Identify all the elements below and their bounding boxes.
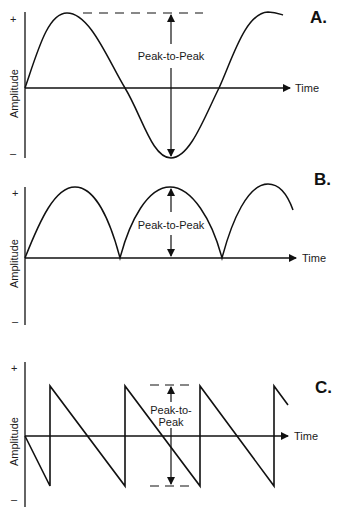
panel-b-peak-to-peak-label: Peak-to-Peak xyxy=(138,219,205,231)
panel-c-letter: C. xyxy=(315,378,332,397)
panel-a-peak-to-peak-label: Peak-to-Peak xyxy=(138,50,205,62)
panel-b-x-label: Time xyxy=(302,252,326,264)
panel-c-peak-to-peak-label-line2: Peak xyxy=(158,416,184,428)
panel-a-x-label: Time xyxy=(295,82,319,94)
panel-a-y-label: Amplitude xyxy=(8,69,20,118)
panel-c-x-label: Time xyxy=(294,430,318,442)
panel-c-minus-sign: – xyxy=(11,493,18,505)
panel-c-plus-sign: + xyxy=(11,362,17,374)
panel-c-peak-to-peak-label-line1: Peak-to- xyxy=(150,404,192,416)
panel-c: C. + – Amplitude Time Peak-to- Peak xyxy=(8,362,332,507)
panel-a-plus-sign: + xyxy=(10,13,16,25)
panel-b-minus-sign: – xyxy=(12,315,19,327)
waveform-diagram: A. + – Amplitude Time Peak-to-Peak B. + … xyxy=(0,0,341,513)
panel-b-plus-sign: + xyxy=(12,187,18,199)
panel-a-minus-sign: – xyxy=(10,147,17,159)
panel-a-sine-wave xyxy=(25,12,283,158)
panel-b-letter: B. xyxy=(314,170,331,189)
panel-c-y-label: Amplitude xyxy=(8,417,20,466)
panel-a: A. + – Amplitude Time Peak-to-Peak xyxy=(8,8,327,159)
panel-b: B. + – Amplitude Time Peak-to-Peak xyxy=(8,170,331,327)
panel-b-y-label: Amplitude xyxy=(8,239,20,288)
panel-a-letter: A. xyxy=(310,8,327,27)
